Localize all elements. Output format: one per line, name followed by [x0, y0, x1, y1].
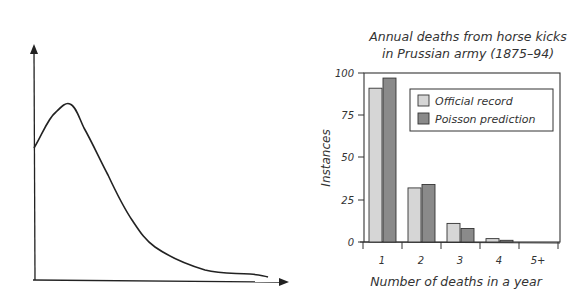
y-tick-0: 0: [348, 237, 354, 248]
x-tick-2: 2: [418, 255, 424, 266]
bar-chart: Annual deaths from horse kicks in Prussi…: [319, 29, 567, 289]
bar-poisson-4: [500, 240, 513, 242]
y-tick-100: 100: [335, 68, 354, 79]
bar-poisson-1: [383, 78, 396, 242]
bar-official-3: [447, 223, 460, 242]
sketch-y-axis: [34, 50, 35, 280]
bar-poisson-3: [461, 228, 474, 242]
x-tick-1: 1: [379, 255, 385, 266]
bar-official-1: [369, 88, 382, 242]
chart-title-line-2: in Prussian army (1875–94): [382, 46, 554, 61]
y-tick-25: 25: [341, 195, 354, 206]
bar-poisson-2: [422, 185, 435, 242]
sketch-x-axis: [33, 280, 282, 282]
figure: Annual deaths from horse kicks in Prussi…: [0, 0, 584, 307]
y-tick-75: 75: [341, 110, 354, 121]
arrow-right-icon: [279, 278, 289, 286]
bar-official-2: [408, 188, 421, 242]
legend-label-official: Official record: [435, 95, 514, 108]
x-tick-5plus: 5+: [531, 255, 546, 266]
legend-swatch-poisson: [418, 113, 429, 124]
chart-title-line-1: Annual deaths from horse kicks: [368, 29, 567, 44]
sketch-curve: [34, 103, 268, 277]
arrow-up-icon: [30, 44, 38, 54]
legend-label-poisson: Poisson prediction: [435, 113, 536, 126]
bar-official-4: [486, 239, 499, 242]
x-tick-4: 4: [496, 255, 502, 266]
y-axis-label: Instances: [319, 129, 333, 186]
legend-swatch-official: [418, 95, 429, 106]
x-tick-3: 3: [457, 255, 463, 266]
y-tick-50: 50: [341, 152, 354, 163]
sketch-chart: [30, 44, 289, 286]
x-axis-label: Number of deaths in a year: [370, 274, 543, 289]
legend: Official record Poisson prediction: [410, 89, 553, 131]
y-ticks: [358, 73, 364, 242]
